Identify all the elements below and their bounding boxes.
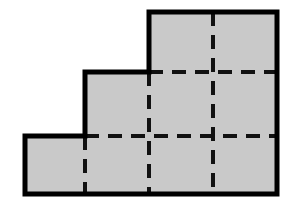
staircase-polygon-diagram xyxy=(0,0,297,211)
figure-canvas: Staircase polygon composed of unit squar… xyxy=(0,0,297,211)
